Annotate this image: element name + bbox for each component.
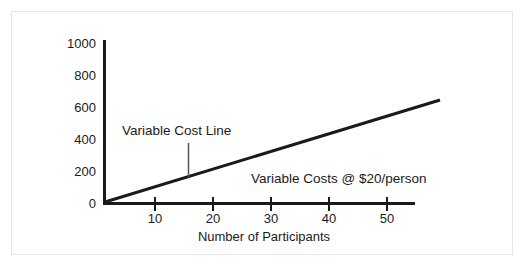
x-tick-label-10: 10 [148, 211, 162, 226]
x-tick-label-30: 30 [264, 211, 278, 226]
variable-cost-line-label: Variable Cost Line [122, 123, 231, 138]
y-tick-label-0: 0 [89, 196, 96, 211]
x-tick-label-40: 40 [322, 211, 336, 226]
x-tick-label-50: 50 [380, 211, 394, 226]
variable-cost-chart: 10 20 30 40 50 0 200 400 600 800 1000 Va… [0, 0, 525, 273]
y-tick-label-1000: 1000 [67, 36, 96, 51]
y-tick-label-600: 600 [74, 100, 96, 115]
y-tick-labels: 0 200 400 600 800 1000 [67, 36, 96, 211]
y-tick-label-200: 200 [74, 164, 96, 179]
y-tick-label-400: 400 [74, 132, 96, 147]
x-axis-title: Number of Participants [198, 229, 331, 244]
y-tick-label-800: 800 [74, 68, 96, 83]
x-tick-labels: 10 20 30 40 50 [148, 211, 394, 226]
variable-cost-data-line [105, 100, 440, 202]
x-tick-label-20: 20 [206, 211, 220, 226]
variable-costs-rate-label: Variable Costs @ $20/person [251, 171, 427, 186]
